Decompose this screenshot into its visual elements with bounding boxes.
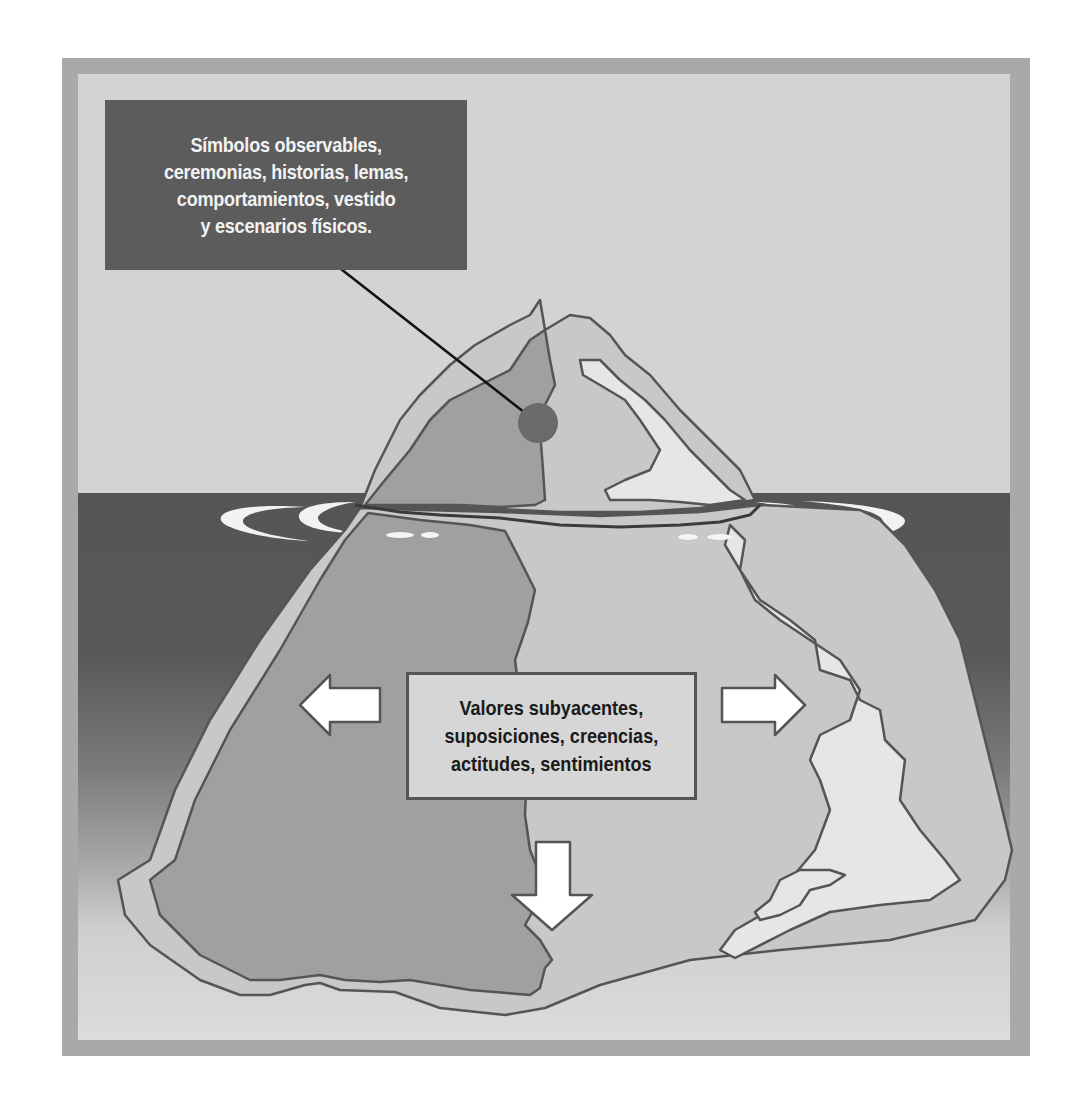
observable-symbols-text: Símbolos observables, ceremonias, histor… — [164, 131, 408, 239]
underlying-values-text: Valores subyacentes, suposiciones, creen… — [445, 694, 659, 778]
underlying-values-callout: Valores subyacentes, suposiciones, creen… — [406, 672, 697, 800]
ripple-left-icon — [221, 502, 355, 541]
observable-symbols-callout: Símbolos observables, ceremonias, histor… — [105, 100, 467, 270]
pointer-dot-icon — [518, 403, 558, 443]
